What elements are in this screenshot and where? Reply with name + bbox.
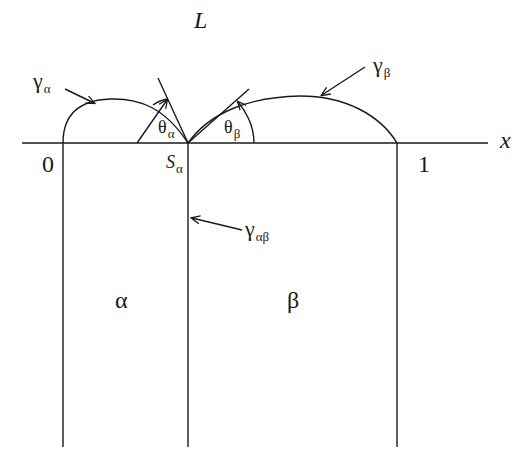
- beta-interface-curve: [188, 96, 397, 143]
- gamma-alpha-symbol: γ: [33, 68, 43, 93]
- gamma-alpha-label: γα: [33, 70, 51, 95]
- gamma-alpha-arrow: [65, 89, 94, 103]
- gamma-ab-subscript: αβ: [256, 229, 269, 244]
- gamma-ab-arrow: [192, 218, 242, 230]
- s-alpha-label: Sα: [166, 153, 183, 175]
- gamma-beta-symbol: γ: [373, 52, 383, 77]
- origin-label: 0: [42, 152, 54, 176]
- s-alpha-subscript: α: [176, 161, 183, 176]
- theta-alpha-subscript: α: [168, 126, 175, 141]
- gamma-beta-arrow: [322, 67, 365, 95]
- s-alpha-symbol: S: [166, 152, 175, 172]
- gamma-ab-symbol: γ: [245, 216, 255, 241]
- phase-alpha-label: α: [115, 288, 128, 312]
- phase-beta-label: β: [287, 288, 299, 312]
- gamma-ab-label: γαβ: [245, 218, 269, 243]
- gamma-beta-label: γβ: [373, 54, 390, 79]
- one-label: 1: [418, 152, 430, 176]
- x-axis-label: x: [500, 128, 511, 152]
- liquid-label: L: [194, 8, 207, 32]
- theta-beta-symbol: θ: [224, 117, 233, 137]
- theta-beta-arc: [238, 102, 254, 143]
- theta-beta-subscript: β: [234, 126, 241, 141]
- theta-beta-label: θβ: [224, 118, 240, 140]
- theta-alpha-symbol: θ: [158, 117, 167, 137]
- gamma-alpha-subscript: α: [44, 81, 51, 96]
- theta-alpha-label: θα: [158, 118, 174, 140]
- gamma-beta-subscript: β: [384, 65, 391, 80]
